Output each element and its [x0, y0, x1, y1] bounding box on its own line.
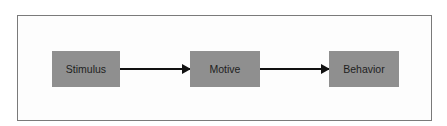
node-stimulus: Stimulus [52, 51, 120, 87]
node-label: Motive [210, 63, 241, 75]
node-motive: Motive [190, 51, 260, 87]
node-behavior: Behavior [329, 51, 399, 87]
arrow-stimulus-to-motive [120, 68, 190, 70]
arrow-motive-to-behavior [260, 68, 329, 70]
node-label: Stimulus [66, 63, 106, 75]
node-label: Behavior [343, 63, 384, 75]
